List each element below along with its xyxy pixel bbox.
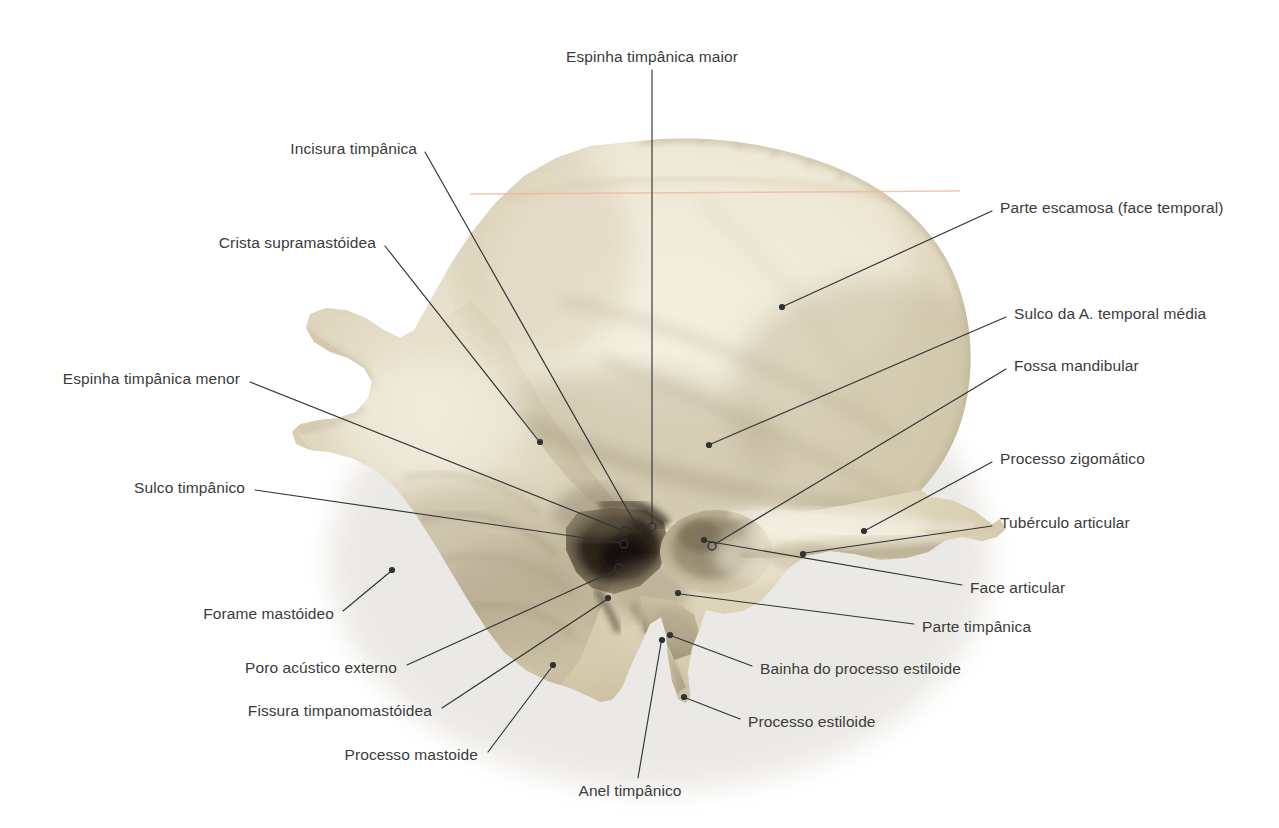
label-sulco-da-a-temporal-media: Sulco da A. temporal média [1014, 306, 1206, 322]
label-face-articular: Face articular [970, 580, 1065, 596]
label-fossa-mandibular: Fossa mandibular [1014, 358, 1139, 374]
label-processo-mastoide: Processo mastoide [344, 747, 478, 763]
label-parte-escamosa-face-temporal: Parte escamosa (face temporal) [1000, 200, 1224, 216]
anatomy-figure: Espinha timpânica maiorIncisura timpânic… [0, 0, 1279, 828]
label-fissura-timpanomastoidea: Fissura timpanomastóidea [248, 703, 432, 719]
label-espinha-timpanica-menor: Espinha timpânica menor [63, 371, 240, 387]
label-processo-estiloide: Processo estiloide [748, 714, 876, 730]
label-parte-timpanica: Parte timpânica [922, 619, 1031, 635]
label-processo-zigomatico: Processo zigomático [1000, 451, 1145, 467]
label-crista-supramastoidea: Crista supramastóidea [219, 235, 376, 251]
label-sulco-timpanico: Sulco timpânico [134, 480, 245, 496]
label-incisura-timpanica: Incisura timpânica [290, 141, 417, 157]
label-bainha-do-processo-estiloide: Bainha do processo estiloide [760, 661, 961, 677]
label-forame-mastoideo: Forame mastóideo [203, 606, 334, 622]
label-anel-timpanico: Anel timpânico [578, 783, 681, 799]
label-poro-acustico-externo: Poro acústico externo [245, 660, 397, 676]
label-espinha-timpanica-maior: Espinha timpânica maior [566, 49, 738, 65]
label-tuberculo-articular: Tubérculo articular [1000, 515, 1130, 531]
temporal-bone-illustration [0, 0, 1279, 828]
